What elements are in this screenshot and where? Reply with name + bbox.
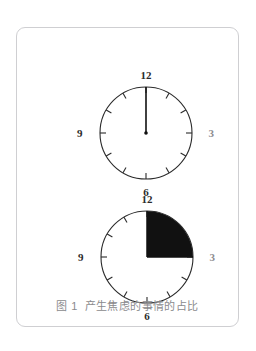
clock-top-numeral-3: 3	[209, 128, 215, 139]
figure-caption-label: 图 1	[56, 300, 77, 312]
clock-bottom-shaded-sector	[147, 211, 193, 257]
figure-frame: 12 3 6 9 12 3 6 9	[16, 27, 239, 327]
clock-bottom-numeral-3: 3	[210, 252, 216, 263]
clock-top-numeral-12: 12	[141, 70, 152, 81]
clock-top-dial	[86, 73, 206, 193]
clock-top-center-dot	[144, 131, 148, 135]
clock-top-numeral-9: 9	[77, 128, 83, 139]
clock-bottom-numeral-12: 12	[142, 194, 153, 205]
figure-caption: 图 1产生焦虑的事情的占比	[17, 299, 238, 313]
figure-caption-text: 产生焦虑的事情的占比	[85, 300, 199, 312]
clock-bottom-numeral-9: 9	[78, 252, 84, 263]
clock-top: 12 3 6 9	[86, 73, 206, 193]
